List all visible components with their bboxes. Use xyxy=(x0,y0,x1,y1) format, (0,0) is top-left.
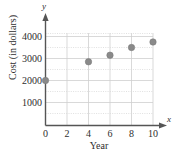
plot-area: y x 4000 3000 2000 1000 0 2 4 6 8 10 xyxy=(0,0,176,164)
x-tick-label-0: 0 xyxy=(43,128,48,139)
x-tick-label-10: 10 xyxy=(148,128,158,139)
y-tick-label-1000: 1000 xyxy=(22,97,42,108)
scatter-plot-figure: Cost (in dollars) Year xyxy=(0,0,176,164)
y-axis xyxy=(42,13,48,126)
y-tick-label-4000: 4000 xyxy=(22,31,42,42)
data-point xyxy=(107,52,113,58)
y-tick-label-3000: 3000 xyxy=(22,53,42,64)
minor-gridlines xyxy=(46,34,154,114)
x-tick-label-2: 2 xyxy=(65,128,70,139)
data-point xyxy=(150,39,156,45)
vertical-gridlines xyxy=(46,33,154,125)
y-tick-label-2000: 2000 xyxy=(22,75,42,86)
y-axis-variable-label: y xyxy=(41,1,46,11)
data-point xyxy=(42,77,48,83)
x-tick-label-6: 6 xyxy=(108,128,113,139)
data-point xyxy=(128,44,134,50)
x-tick-label-4: 4 xyxy=(86,128,91,139)
x-axis-variable-label: x xyxy=(166,114,171,124)
data-point-group xyxy=(42,39,156,84)
x-tick-label-8: 8 xyxy=(129,128,134,139)
data-point xyxy=(85,59,91,65)
